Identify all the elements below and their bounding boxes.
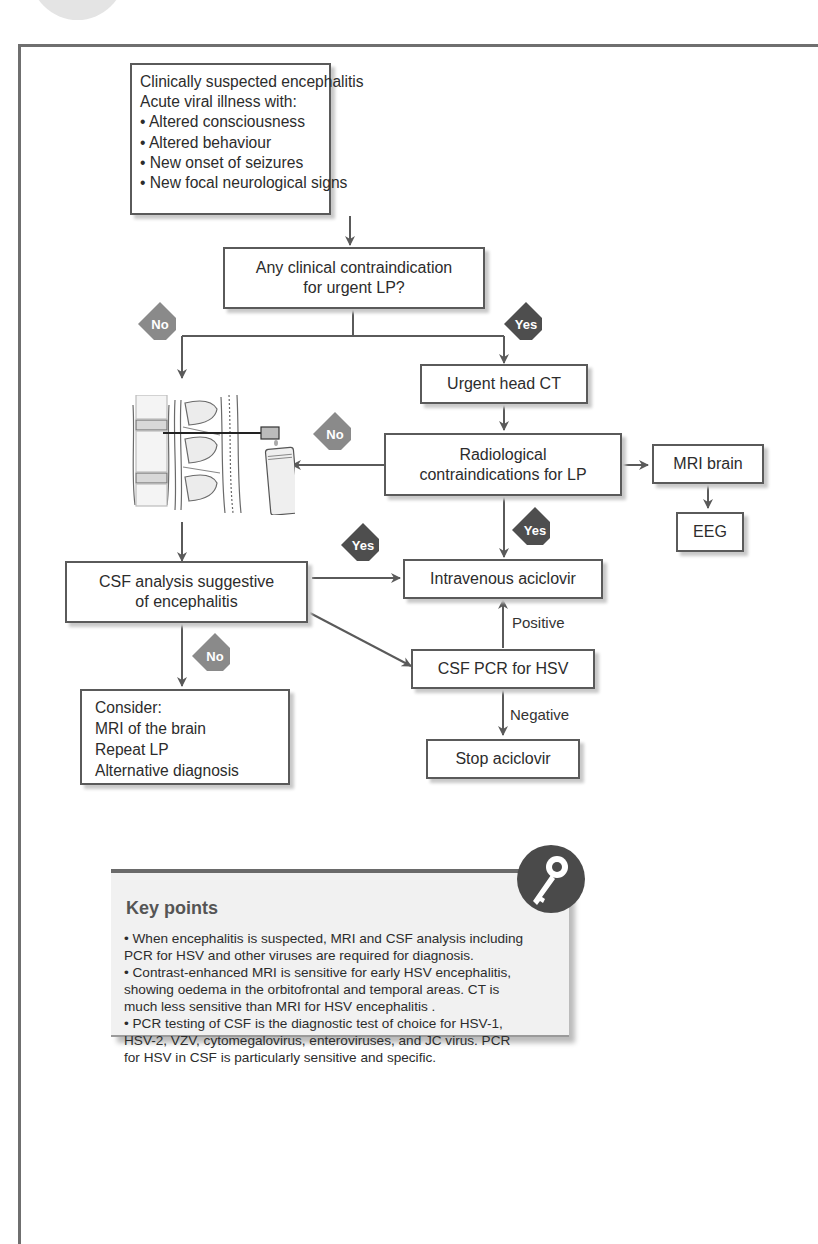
node-text: MRI of the brain: [95, 718, 288, 739]
decision-label: Yes: [504, 302, 548, 346]
edge-label-negative: Negative: [510, 706, 569, 723]
key-point-line: • Contrast-enhanced MRI is sensitive for…: [124, 964, 564, 981]
key-point-line: showing oedema in the orbitofrontal and …: [124, 981, 564, 998]
key-points-title: Key points: [126, 898, 218, 919]
node-csf-pcr-hsv: CSF PCR for HSV: [411, 649, 595, 689]
node-text: Consider:: [95, 697, 288, 718]
decision-no-radiological: No: [313, 412, 357, 456]
decision-label: No: [313, 412, 357, 456]
node-eeg: EEG: [676, 512, 744, 552]
key-point-line: • PCR testing of CSF is the diagnostic t…: [124, 1015, 564, 1032]
key-point-3: • PCR testing of CSF is the diagnostic t…: [124, 1015, 564, 1066]
node-text: • Altered consciousness: [140, 112, 329, 132]
key-point-line: for HSV in CSF is particularly sensitive…: [124, 1049, 564, 1066]
decision-yes-csf: Yes: [341, 523, 385, 567]
node-text: Stop aciclovir: [455, 749, 550, 769]
node-text: Any clinical contraindication: [256, 258, 453, 278]
lumbar-puncture-illustration: [125, 395, 295, 515]
node-text: • New focal neurological signs: [140, 173, 329, 193]
node-text: for urgent LP?: [303, 278, 404, 298]
node-text: Radiological: [459, 445, 546, 465]
decision-label: Yes: [341, 523, 385, 567]
node-text: contraindications for LP: [419, 465, 586, 485]
key-points-list: • When encephalitis is suspected, MRI an…: [124, 930, 564, 1066]
node-urgent-head-ct: Urgent head CT: [420, 364, 588, 404]
node-text: Urgent head CT: [447, 374, 561, 394]
node-clinical-contraindication: Any clinical contraindication for urgent…: [223, 247, 485, 309]
key-point-line: HSV-2, VZV, cytomegalovirus, enterovirus…: [124, 1032, 564, 1049]
node-text: CSF PCR for HSV: [438, 659, 569, 679]
node-text: CSF analysis suggestive: [99, 572, 274, 592]
key-points-panel: Key points • When encephalitis is suspec…: [111, 869, 569, 1037]
decision-label: No: [192, 633, 238, 679]
node-intravenous-aciclovir: Intravenous aciclovir: [403, 559, 603, 599]
key-point-line: PCR for HSV and other viruses are requir…: [124, 947, 564, 964]
key-point-line: much less sensitive than MRI for HSV enc…: [124, 998, 564, 1015]
node-mri-brain: MRI brain: [652, 444, 764, 484]
node-text: Alternative diagnosis: [95, 760, 288, 781]
node-csf-analysis: CSF analysis suggestive of encephalitis: [65, 561, 308, 623]
decision-yes-radiological: Yes: [512, 507, 558, 553]
edge-label-positive: Positive: [512, 614, 565, 631]
node-stop-aciclovir: Stop aciclovir: [426, 739, 580, 779]
decision-no-csf: No: [192, 633, 238, 679]
node-consider: Consider: MRI of the brain Repeat LP Alt…: [80, 689, 290, 785]
node-text: Acute viral illness with:: [140, 92, 329, 112]
decision-label: No: [138, 302, 182, 346]
decision-no-clinical: No: [138, 302, 182, 346]
node-text: MRI brain: [673, 454, 742, 474]
node-suspected-encephalitis: Clinically suspected encephalitis Acute …: [130, 63, 331, 215]
key-point-line: • When encephalitis is suspected, MRI an…: [124, 930, 564, 947]
key-point-1: • When encephalitis is suspected, MRI an…: [124, 930, 564, 964]
node-text: of encephalitis: [135, 592, 237, 612]
key-point-2: • Contrast-enhanced MRI is sensitive for…: [124, 964, 564, 1015]
node-text: Clinically suspected encephalitis: [140, 72, 329, 92]
node-text: Repeat LP: [95, 739, 288, 760]
decision-label: Yes: [512, 507, 558, 553]
decision-yes-clinical: Yes: [504, 302, 548, 346]
node-text: Intravenous aciclovir: [430, 569, 576, 589]
node-text: • Altered behaviour: [140, 133, 329, 153]
key-icon: [517, 845, 585, 913]
node-text: EEG: [693, 522, 727, 542]
node-text: • New onset of seizures: [140, 153, 329, 173]
node-radiological-contraindications: Radiological contraindications for LP: [384, 433, 622, 496]
